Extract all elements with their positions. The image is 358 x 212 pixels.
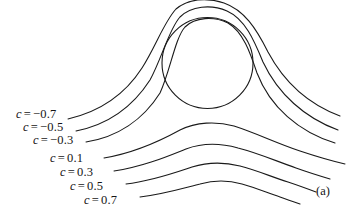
- contour-label-variable: c: [23, 120, 29, 134]
- contour-label-value: 0.3: [77, 165, 93, 179]
- contour-label: c=0.5: [70, 180, 103, 193]
- contour-label: c=−0.5: [23, 121, 63, 134]
- contour-figure: c=−0.7c=−0.5c=−0.3c=0.1c=0.3c=0.5c=0.7 (…: [0, 0, 358, 212]
- contour-label-variable: c: [70, 179, 76, 193]
- contour-label-equals: =: [22, 107, 33, 121]
- contour-line-group: [68, 0, 345, 204]
- contour-label-equals: =: [56, 151, 67, 165]
- contour-label-equals: =: [66, 165, 77, 179]
- contour-label-variable: c: [33, 133, 39, 147]
- circular-obstacle: [162, 18, 253, 109]
- contour-label-value: 0.1: [67, 151, 83, 165]
- contour-label-value: −0.5: [40, 120, 63, 134]
- contour-line: [104, 123, 345, 164]
- contour-label-equals: =: [29, 120, 40, 134]
- contour-label-variable: c: [50, 151, 56, 165]
- panel-label: (a): [316, 184, 330, 199]
- contour-line: [126, 163, 316, 192]
- contour-label-value: 0.5: [87, 179, 103, 193]
- contour-label-variable: c: [16, 107, 22, 121]
- contour-label-equals: =: [76, 179, 87, 193]
- contour-label: c=0.1: [50, 152, 83, 165]
- contour-label-variable: c: [60, 165, 66, 179]
- contour-line: [86, 18, 335, 143]
- contour-line: [114, 144, 330, 179]
- contour-line: [140, 181, 300, 204]
- contour-label-equals: =: [90, 193, 101, 207]
- contour-label: c=0.7: [84, 194, 117, 207]
- contour-label: c=−0.7: [16, 108, 56, 121]
- contour-label: c=−0.3: [33, 134, 73, 147]
- contour-label-value: 0.7: [101, 193, 117, 207]
- contour-label-value: −0.7: [33, 107, 56, 121]
- contour-label-value: −0.3: [50, 133, 73, 147]
- contour-label-equals: =: [39, 133, 50, 147]
- contour-label: c=0.3: [60, 166, 93, 179]
- contour-plot-svg: [0, 0, 358, 212]
- contour-label-variable: c: [84, 193, 90, 207]
- contour-line: [76, 7, 338, 131]
